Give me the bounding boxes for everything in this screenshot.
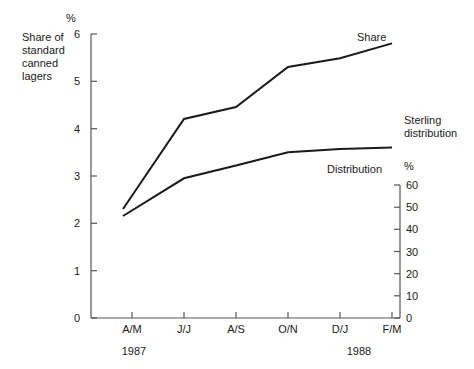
series-label-distribution: Distribution bbox=[327, 163, 382, 176]
left-tick-label-0: 0 bbox=[58, 313, 80, 324]
x-tick-label-as: A/S bbox=[216, 324, 256, 335]
series-line-share bbox=[123, 43, 392, 209]
left-tick-label-3: 3 bbox=[58, 171, 80, 182]
left-tick-label-2: 2 bbox=[58, 218, 80, 229]
right-axis-title: Sterling distribution bbox=[404, 114, 468, 140]
left-axis-title: Share of standard canned lagers bbox=[22, 31, 92, 83]
left-tick-label-1: 1 bbox=[58, 266, 80, 277]
x-tick-label-on: O/N bbox=[268, 324, 308, 335]
right-axis-ticks bbox=[394, 185, 400, 318]
x-tick-label-fm: F/M bbox=[372, 324, 412, 335]
x-axis-ticks bbox=[132, 312, 392, 318]
right-axis-unit: % bbox=[404, 160, 414, 173]
x-tick-label-am: A/M bbox=[112, 324, 152, 335]
left-tick-label-6: 6 bbox=[58, 29, 80, 40]
left-axis-unit: % bbox=[66, 12, 76, 25]
right-tick-label-60: 60 bbox=[406, 180, 430, 191]
right-tick-label-50: 50 bbox=[406, 202, 430, 213]
left-tick-label-4: 4 bbox=[58, 124, 80, 135]
right-tick-label-20: 20 bbox=[406, 269, 430, 280]
left-tick-label-5: 5 bbox=[58, 76, 80, 87]
series-line-distribution bbox=[123, 148, 392, 216]
right-tick-label-10: 10 bbox=[406, 291, 430, 302]
series-label-share: Share bbox=[357, 31, 386, 44]
chart-container: Share of standard canned lagers % Sterli… bbox=[0, 0, 474, 369]
x-tick-label-jj: J/J bbox=[164, 324, 204, 335]
x-tick-label-dj: D/J bbox=[320, 324, 360, 335]
right-tick-label-0: 0 bbox=[406, 313, 430, 324]
period-label-start: 1987 bbox=[114, 345, 154, 358]
right-tick-label-40: 40 bbox=[406, 224, 430, 235]
period-label-end: 1988 bbox=[339, 345, 379, 358]
right-tick-label-30: 30 bbox=[406, 247, 430, 258]
